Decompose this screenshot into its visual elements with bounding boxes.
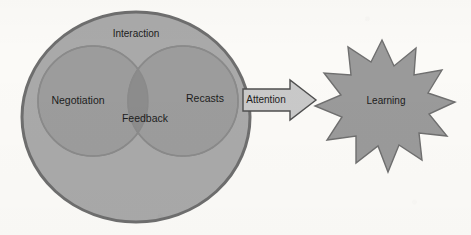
negotiation-label: Negotiation <box>51 94 104 106</box>
interaction-label: Interaction <box>113 28 160 39</box>
feedback-label: Feedback <box>122 112 169 124</box>
recasts-label: Recasts <box>186 92 224 104</box>
learning-label: Learning <box>367 95 406 106</box>
attention-label: Attention <box>246 94 285 105</box>
diagram-canvas: Interaction Negotiation Feedback Recasts… <box>0 0 471 235</box>
interaction-learning-diagram: Interaction Negotiation Feedback Recasts… <box>0 0 471 235</box>
